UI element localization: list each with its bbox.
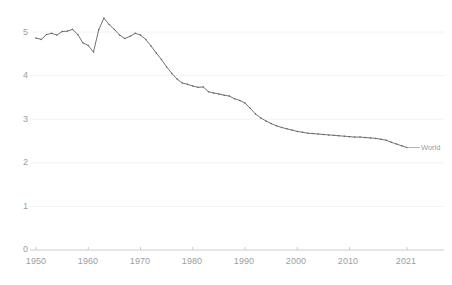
y-tick-label-5: 5 xyxy=(14,28,28,37)
x-tick-label-1970: 1970 xyxy=(120,257,160,266)
y-tick-label-3: 3 xyxy=(14,115,28,124)
x-tick-label-1980: 1980 xyxy=(172,257,212,266)
gridlines xyxy=(30,32,444,206)
x-tick-label-2021: 2021 xyxy=(386,257,426,266)
chart-plot-area xyxy=(0,0,452,285)
y-tick-label-4: 4 xyxy=(14,71,28,80)
y-tick-label-0: 0 xyxy=(14,245,28,254)
y-tick-label-1: 1 xyxy=(14,202,28,211)
x-tick-label-1950: 1950 xyxy=(16,257,56,266)
y-tick-label-2: 2 xyxy=(14,158,28,167)
x-tick-label-2010: 2010 xyxy=(328,257,368,266)
x-tick-label-1960: 1960 xyxy=(68,257,108,266)
x-tick-label-1990: 1990 xyxy=(224,257,264,266)
fertility-rate-line-chart: 5 4 3 2 1 0 1950 1960 1970 1980 1990 200… xyxy=(0,0,452,285)
series-label-world: World xyxy=(421,144,440,152)
series-world-points xyxy=(35,17,408,148)
x-tick-label-2000: 2000 xyxy=(276,257,316,266)
series-world-line xyxy=(36,18,407,147)
